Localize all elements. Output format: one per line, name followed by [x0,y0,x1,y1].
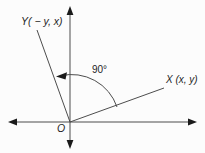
y-ray-label: Y( − y, x) [21,15,63,27]
angle-label: 90° [92,64,107,75]
geometry-figure: Y( − y, x) X (x, y) 90° O [0,0,205,153]
origin-label: O [57,122,65,134]
x-axis-right-arrow-icon [188,119,197,126]
y-axis-bottom-arrow-icon [67,140,74,149]
coordinate-diagram: Y( − y, x) X (x, y) 90° O [0,0,205,153]
x-axis-left-arrow-icon [8,119,17,126]
angle-arc [61,75,118,107]
ray-to-point-x [70,88,164,122]
angle-arc-arrow-icon [56,72,67,79]
x-ray-label: X (x, y) [165,74,198,85]
y-axis-top-arrow-icon [67,6,74,15]
